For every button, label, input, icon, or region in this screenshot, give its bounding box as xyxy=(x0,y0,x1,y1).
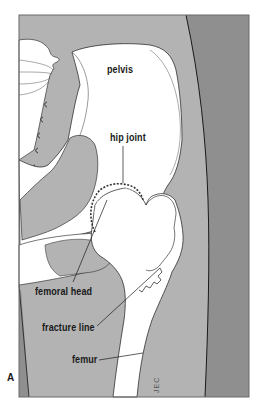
label-pelvis: pelvis xyxy=(107,64,133,75)
label-femur: femur xyxy=(72,354,97,365)
label-fracture-line: fracture line xyxy=(42,322,95,333)
label-hip-joint: hip joint xyxy=(110,132,146,143)
panel-letter: A xyxy=(7,372,14,383)
hip-fracture-illustration xyxy=(0,0,264,409)
artist-signature: JEC xyxy=(153,377,160,393)
label-femoral-head: femoral head xyxy=(35,286,92,297)
